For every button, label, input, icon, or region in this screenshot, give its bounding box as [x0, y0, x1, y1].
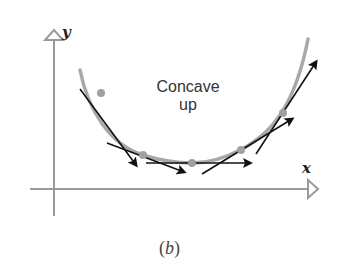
y-axis-arrow-icon — [45, 30, 63, 40]
x-axis — [30, 180, 318, 198]
x-axis-label: x — [302, 161, 311, 176]
caption-close-paren: ) — [174, 238, 180, 258]
caption-letter: b — [165, 238, 174, 258]
y-axis-label: y — [62, 25, 71, 40]
tangent-5 — [256, 62, 316, 154]
point-4 — [237, 146, 245, 154]
point-1 — [97, 89, 105, 97]
x-axis-arrow-icon — [308, 180, 318, 198]
annotation-line-1: Concave — [145, 78, 231, 96]
graph — [0, 0, 339, 274]
annotation-line-2: up — [145, 96, 231, 114]
tangent-4 — [202, 119, 292, 174]
point-2 — [139, 151, 147, 159]
point-5 — [279, 109, 287, 117]
tangent-1 — [80, 89, 136, 165]
point-3 — [188, 159, 196, 167]
concavity-figure: y x Concave up (b) — [0, 0, 339, 274]
figure-caption: (b) — [0, 238, 339, 259]
concavity-annotation: Concave up — [145, 78, 231, 114]
